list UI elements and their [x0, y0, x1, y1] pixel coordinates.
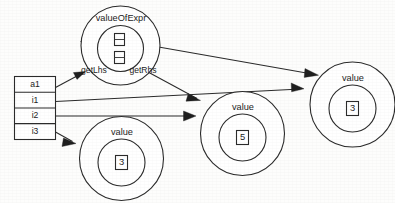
variable-row-i2: i2: [32, 110, 39, 120]
value-bottom-left-class-label: value: [111, 127, 133, 137]
variable-row-i3: i3: [32, 126, 39, 136]
valueOfExpr-role-getRhs: getRhs: [129, 65, 156, 75]
value-top-right-class-label: value: [342, 73, 364, 83]
diagram-svg: a1 i1 i2 i3 valueOfExpr getLhs getRhs: [0, 0, 395, 203]
variable-row-i1: i1: [32, 95, 39, 105]
value-bottom-left-field-value: 3: [119, 156, 124, 167]
object-value-middle[interactable]: value 5: [201, 92, 285, 176]
variable-row-a1: a1: [30, 79, 40, 89]
object-value-bottom-left[interactable]: value 3: [80, 117, 164, 201]
edge-i3-to-value-bottom-left: [56, 132, 77, 147]
value-middle-class-label: value: [232, 102, 254, 112]
value-middle-field-value: 5: [240, 131, 245, 142]
object-value-top-right[interactable]: value 3: [310, 62, 395, 147]
diagram-canvas: a1 i1 i2 i3 valueOfExpr getLhs getRhs: [0, 0, 395, 203]
variable-table[interactable]: a1 i1 i2 i3: [15, 77, 56, 140]
valueOfExpr-class-label: valueOfExpr: [96, 13, 147, 23]
value-top-right-field-value: 3: [350, 102, 355, 113]
valueOfExpr-role-getLhs: getLhs: [81, 65, 107, 75]
object-valueOfExpr[interactable]: valueOfExpr getLhs getRhs: [81, 6, 160, 85]
